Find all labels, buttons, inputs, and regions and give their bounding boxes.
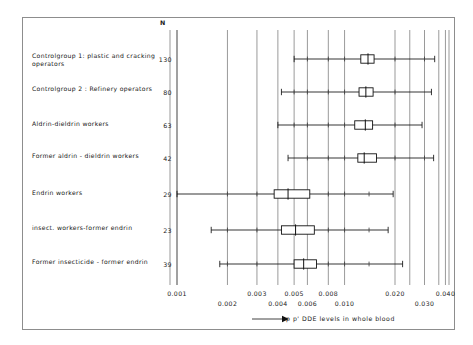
n-value-4: 42 (148, 155, 172, 162)
x-tick-label-0.008: 0.008 (308, 290, 348, 297)
x-tick-label-0.020: 0.020 (375, 290, 415, 297)
box-plot-row (278, 119, 422, 130)
box-plot-row (211, 224, 388, 235)
n-column-header: N (160, 19, 166, 26)
box-iqr (274, 190, 310, 198)
n-value-6: 23 (148, 227, 172, 234)
x-tick-label-0.030: 0.030 (405, 300, 445, 307)
figure-root: Controlgroup 1: plastic and cracking ope… (0, 0, 473, 345)
n-value-7: 39 (148, 261, 172, 268)
arrow-right-icon (252, 316, 289, 322)
x-tick-label-0.040: 0.040 (425, 290, 465, 297)
x-axis-title: p p' DDE levels in whole blood (286, 315, 395, 322)
x-tick-label-0.002: 0.002 (207, 300, 247, 307)
box-iqr (281, 226, 314, 234)
box-plot-row (220, 258, 403, 269)
n-value-1: 130 (148, 56, 172, 63)
box-plot-row (177, 188, 393, 199)
x-tick-label-0.010: 0.010 (325, 300, 365, 307)
x-tick-label-0.001: 0.001 (157, 290, 197, 297)
box-iqr (294, 260, 316, 268)
box-plot-row (281, 86, 431, 97)
x-tick-label-0.006: 0.006 (287, 300, 327, 307)
x-tick-label-0.003: 0.003 (237, 290, 277, 297)
box-iqr (355, 121, 373, 129)
box-plot-row (288, 152, 434, 163)
box-iqr (358, 154, 377, 162)
box-iqr (361, 55, 374, 63)
box-plot-row (294, 53, 435, 64)
n-value-5: 29 (148, 191, 172, 198)
n-value-3: 63 (148, 122, 172, 129)
n-value-2: 80 (148, 89, 172, 96)
